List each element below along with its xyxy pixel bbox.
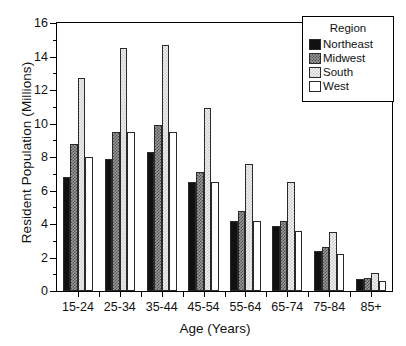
bar xyxy=(238,211,246,291)
x-group-separator-tick xyxy=(308,291,309,297)
x-tick-label: 55-64 xyxy=(229,300,261,314)
x-tick-label: 35-44 xyxy=(146,300,178,314)
bar xyxy=(295,231,303,291)
bar xyxy=(70,144,78,291)
x-group-separator-tick xyxy=(266,291,267,297)
bar xyxy=(364,278,372,291)
x-tick-mark xyxy=(78,291,79,297)
y-tick-label: 12 xyxy=(34,83,48,97)
y-minor-tick-mark xyxy=(53,274,57,275)
y-tick-mark xyxy=(50,57,57,58)
legend: Region NortheastMidwestSouthWest xyxy=(302,16,394,102)
x-tick-label: 65-74 xyxy=(271,300,303,314)
legend-item-label: Midwest xyxy=(323,52,365,64)
x-tick-mark xyxy=(204,291,205,297)
y-tick-mark xyxy=(50,23,57,24)
legend-items: NortheastMidwestSouthWest xyxy=(309,38,387,92)
bar xyxy=(154,125,162,291)
y-tick-label: 10 xyxy=(34,117,48,131)
x-tick-label: 25-34 xyxy=(104,300,136,314)
y-tick-mark xyxy=(50,258,57,259)
legend-item-west[interactable]: West xyxy=(309,80,387,92)
bar xyxy=(245,164,253,291)
bar xyxy=(280,221,288,291)
bar xyxy=(211,182,219,291)
y-tick-label: 16 xyxy=(34,16,48,30)
bar xyxy=(337,254,345,291)
x-tick-label: 15-24 xyxy=(62,300,94,314)
y-tick-mark xyxy=(50,157,57,158)
x-group-separator-tick xyxy=(141,291,142,297)
y-minor-tick-mark xyxy=(53,40,57,41)
x-tick-mark xyxy=(120,291,121,297)
bar xyxy=(230,221,238,291)
legend-item-south[interactable]: South xyxy=(309,66,387,78)
bar xyxy=(188,182,196,291)
y-tick-label: 14 xyxy=(34,50,48,64)
y-tick-mark xyxy=(50,191,57,192)
x-axis-title: Age (Years) xyxy=(40,321,390,336)
y-tick-mark xyxy=(50,224,57,225)
legend-swatch-west-icon xyxy=(309,81,321,92)
bar xyxy=(371,273,379,291)
x-group-separator-tick xyxy=(225,291,226,297)
x-tick-label: 45-54 xyxy=(188,300,220,314)
legend-swatch-midwest-icon xyxy=(309,53,321,64)
legend-item-label: West xyxy=(323,80,349,92)
x-group-separator-tick xyxy=(350,291,351,297)
bar xyxy=(85,157,93,291)
x-tick-mark xyxy=(371,291,372,297)
legend-swatch-south-icon xyxy=(309,67,321,78)
y-tick-mark xyxy=(50,90,57,91)
legend-swatch-northeast-icon xyxy=(309,39,321,50)
y-tick-mark xyxy=(50,124,57,125)
bar-chart: Resident Population (Millions) 024681012… xyxy=(0,0,406,346)
bar xyxy=(314,251,322,291)
x-tick-mark xyxy=(287,291,288,297)
bar xyxy=(379,281,387,291)
y-minor-tick-mark xyxy=(53,140,57,141)
x-group-separator-tick xyxy=(99,291,100,297)
legend-title: Region xyxy=(309,22,387,34)
y-tick-label: 8 xyxy=(41,150,48,164)
x-tick-label: 75-84 xyxy=(313,300,345,314)
x-group-separator-tick xyxy=(183,291,184,297)
y-minor-tick-mark xyxy=(53,241,57,242)
bar xyxy=(162,45,170,291)
y-tick-label: 4 xyxy=(41,217,48,231)
y-axis-title: Resident Population (Millions) xyxy=(19,23,34,283)
y-tick-label: 2 xyxy=(41,251,48,265)
bar xyxy=(356,279,364,291)
y-minor-tick-mark xyxy=(53,107,57,108)
x-tick-mark xyxy=(329,291,330,297)
x-tick-mark xyxy=(162,291,163,297)
bar xyxy=(287,182,295,291)
x-tick-label: 85+ xyxy=(360,300,381,314)
bar xyxy=(272,226,280,291)
bar xyxy=(329,232,337,291)
y-tick-label: 0 xyxy=(41,284,48,298)
bar xyxy=(169,132,177,291)
bar xyxy=(63,177,71,291)
bar xyxy=(112,132,120,291)
legend-item-label: South xyxy=(323,66,353,78)
y-minor-tick-mark xyxy=(53,207,57,208)
bar xyxy=(253,221,261,291)
y-tick-mark xyxy=(50,291,57,292)
bar xyxy=(147,152,155,291)
y-tick-label: 6 xyxy=(41,184,48,198)
legend-item-midwest[interactable]: Midwest xyxy=(309,52,387,64)
bar xyxy=(322,247,330,291)
bar xyxy=(196,172,204,291)
y-minor-tick-mark xyxy=(53,174,57,175)
y-minor-tick-mark xyxy=(53,73,57,74)
legend-item-northeast[interactable]: Northeast xyxy=(309,38,387,50)
bar xyxy=(204,108,212,291)
legend-item-label: Northeast xyxy=(323,38,373,50)
bar xyxy=(120,48,128,291)
bar xyxy=(127,132,135,291)
bar xyxy=(105,159,113,291)
bar xyxy=(78,78,86,291)
x-tick-mark xyxy=(245,291,246,297)
